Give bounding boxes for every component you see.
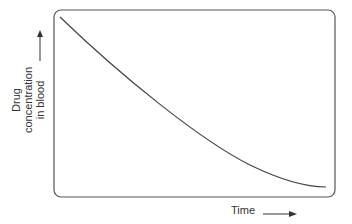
y-label-line-2: concentration (22, 67, 34, 133)
chart-canvas (0, 0, 352, 224)
y-arrow-head-icon (37, 30, 43, 37)
plot-frame (54, 10, 335, 197)
x-axis-label: Time (231, 204, 255, 216)
y-label-line-1: Drug (10, 67, 22, 133)
concentration-curve (60, 17, 326, 187)
y-label-line-3: in blood (34, 67, 46, 133)
y-axis-label: Drug concentration in blood (4, 40, 52, 160)
x-arrow-head-icon (289, 211, 297, 217)
